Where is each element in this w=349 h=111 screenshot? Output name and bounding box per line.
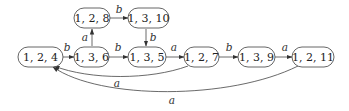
node-1-3-10: 1, 3, 10 [128, 8, 170, 28]
svg-text:b: b [64, 41, 71, 53]
edge-136-128: a [82, 29, 92, 46]
edge-135-127: a [166, 41, 184, 57]
edge-127-139: b [219, 41, 238, 57]
edge-139-1211: a [275, 41, 292, 57]
node-1-3-9: 1, 3, 9 [238, 47, 275, 67]
svg-text:1, 2, 7: 1, 2, 7 [184, 51, 219, 64]
svg-text:1, 3, 10: 1, 3, 10 [128, 12, 170, 25]
svg-text:b: b [226, 41, 233, 53]
edge-1310-135: b [146, 29, 157, 46]
edge-1211-124: a [53, 66, 298, 106]
node-1-3-5: 1, 3, 5 [128, 47, 166, 67]
node-1-2-7: 1, 2, 7 [184, 47, 219, 67]
svg-text:1, 2, 8: 1, 2, 8 [75, 12, 110, 25]
node-1-2-4: 1, 2, 4 [18, 47, 63, 67]
svg-text:b: b [150, 31, 157, 43]
svg-text:1, 3, 9: 1, 3, 9 [239, 51, 274, 64]
svg-text:1, 3, 6: 1, 3, 6 [74, 51, 109, 64]
state-diagram: b a b b b a b a a a 1, 2, 4 1, [0, 0, 349, 111]
svg-text:1, 2, 4: 1, 2, 4 [23, 51, 58, 64]
edge-124-136: b [63, 41, 74, 57]
edge-136-135: b [109, 41, 128, 57]
svg-text:a: a [171, 41, 177, 53]
svg-text:b: b [116, 3, 123, 15]
svg-text:a: a [169, 94, 175, 106]
node-1-2-11: 1, 2, 11 [292, 47, 334, 67]
svg-text:a: a [82, 31, 88, 43]
edge-128-1310: b [110, 3, 128, 18]
svg-text:a: a [114, 77, 120, 89]
node-1-3-6: 1, 3, 6 [74, 47, 109, 67]
svg-text:b: b [115, 41, 122, 53]
node-1-2-8: 1, 2, 8 [74, 8, 110, 28]
svg-text:1, 2, 11: 1, 2, 11 [292, 51, 334, 64]
svg-text:a: a [282, 41, 288, 53]
svg-text:1, 3, 5: 1, 3, 5 [130, 51, 165, 64]
